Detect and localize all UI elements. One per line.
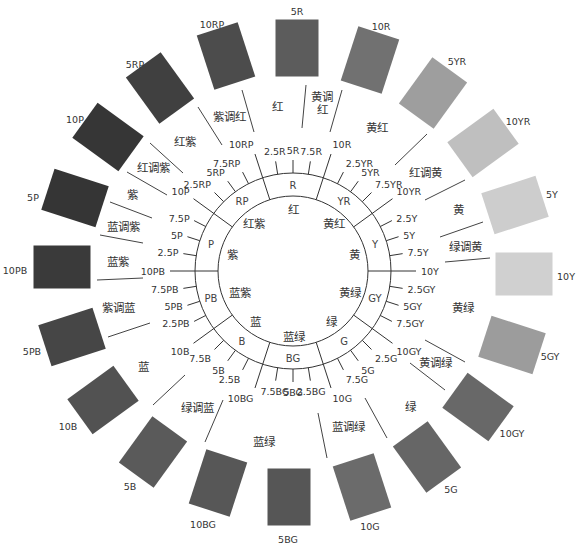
hue-tick-label: 7.5Y xyxy=(408,247,429,258)
region-label: 紫调红 xyxy=(213,110,246,124)
hue-tick-label: 5GY xyxy=(403,301,422,312)
swatch-label: 5R xyxy=(291,6,304,17)
hue-tick xyxy=(215,193,224,202)
hue-tick xyxy=(380,315,392,321)
hue-tick-label: 5YR xyxy=(361,167,380,178)
color-swatch-5gy xyxy=(478,316,545,375)
swatch-label: 10PB xyxy=(3,265,27,276)
hue-tick-label: 7.5YR xyxy=(375,179,403,190)
hue-tick xyxy=(351,181,359,192)
color-swatch-5p xyxy=(41,169,108,228)
hue-tick-label: 2.5G xyxy=(375,353,397,364)
swatch-label: 10B xyxy=(59,421,78,432)
ring-label-bg: BG xyxy=(286,353,300,364)
region-label: 黄红 xyxy=(366,121,388,135)
ring-label-yr: YR xyxy=(336,196,350,207)
swatch-label: 5G xyxy=(444,484,457,495)
color-swatch-5y xyxy=(481,176,548,235)
hue-tick xyxy=(362,340,371,349)
swatch-label: 10R xyxy=(372,21,391,32)
hue-tick xyxy=(354,199,393,227)
hue-tick-label: 5P xyxy=(171,230,183,241)
hue-tick xyxy=(386,237,398,241)
divider xyxy=(445,258,490,262)
region-label: 蓝 xyxy=(138,360,149,374)
region-label: 红 xyxy=(272,100,283,114)
hue-tick xyxy=(380,221,392,227)
swatch-label: 10YR xyxy=(506,116,531,127)
hue-tick xyxy=(183,286,196,288)
color-swatch-10y xyxy=(496,253,553,296)
ring-label-rp: RP xyxy=(236,196,249,207)
hue-tick-label: 10PB xyxy=(141,266,165,277)
color-swatch-10r xyxy=(341,26,400,93)
color-swatch-5r xyxy=(276,20,319,77)
region-label: 蓝调绿 xyxy=(332,420,366,434)
hue-tick xyxy=(243,172,249,184)
swatch-label: 5GY xyxy=(541,351,560,362)
hue-tick-label: 2.5Y xyxy=(396,213,417,224)
inner-labels: 红 黄红 黄 黄绿 绿 蓝绿 蓝 蓝紫 紫 红紫 xyxy=(227,203,363,344)
swatch-label: 5PB xyxy=(23,346,41,357)
color-swatch-10b xyxy=(67,366,138,434)
hue-tick xyxy=(276,368,278,381)
region-label: 红调黄 xyxy=(409,166,442,180)
region-label: 红调紫 xyxy=(137,161,170,175)
color-swatch-10rp xyxy=(197,22,256,89)
hue-tick-label: 2.5R xyxy=(264,146,286,157)
divider xyxy=(425,180,465,200)
hue-tick xyxy=(337,358,343,370)
swatch-label: 10BG xyxy=(190,519,216,530)
inner-label-pb: 蓝紫 xyxy=(229,286,251,300)
swatch-label: 5P xyxy=(27,192,39,203)
hue-tick-label: 7.5G xyxy=(346,374,368,385)
hue-tick xyxy=(386,301,398,305)
region-label: 绿调黄 xyxy=(449,240,482,254)
divider xyxy=(110,202,152,218)
hue-tick xyxy=(308,368,310,381)
hue-tick xyxy=(390,254,403,256)
inner-label-gy: 黄绿 xyxy=(339,286,362,300)
hue-tick xyxy=(193,199,232,227)
hue-tick-label: 7.5P xyxy=(169,213,190,224)
ring-label-b: B xyxy=(239,336,246,347)
color-swatch-5yr xyxy=(399,57,467,128)
hue-tick-label: 10R xyxy=(333,139,352,150)
inner-label-g: 绿 xyxy=(326,315,338,329)
munsell-hue-circle: 紫调红 红 黄调 红 黄红 红调黄 黄 绿调黄 黄绿 黄调绿 绿 蓝调绿 蓝绿 … xyxy=(0,0,579,544)
hue-tick-label: 2.5PB xyxy=(162,318,189,329)
hue-tick-label: 2.5GY xyxy=(408,284,436,295)
divider xyxy=(108,323,150,337)
inner-ring-circle xyxy=(218,196,368,346)
inner-label-rp: 红紫 xyxy=(243,217,265,231)
color-swatch-10bg xyxy=(189,449,248,516)
divider xyxy=(395,134,427,165)
hue-tick-label: 7.5GY xyxy=(396,318,424,329)
region-label: 红 xyxy=(317,103,328,117)
hue-tick-label: 5RP xyxy=(206,167,225,178)
swatch-label: 5YR xyxy=(448,56,467,67)
region-label: 黄绿 xyxy=(452,301,475,315)
hue-tick xyxy=(215,340,224,349)
hue-tick-label: 7.5R xyxy=(300,146,322,157)
divider xyxy=(440,222,483,237)
ring-label-p: P xyxy=(208,239,214,250)
inner-label-b: 蓝 xyxy=(250,315,261,329)
hue-tick xyxy=(351,350,359,361)
hue-tick-label: 5PB xyxy=(164,301,182,312)
color-swatch-5pb xyxy=(38,308,105,367)
hue-tick-label: 2.5BG xyxy=(297,386,326,397)
region-label: 黄 xyxy=(453,203,464,217)
region-label: 黄调 xyxy=(311,90,333,104)
region-label: 绿 xyxy=(405,400,417,414)
hue-tick xyxy=(187,237,199,241)
region-label: 红紫 xyxy=(174,135,196,149)
region-label: 蓝紫 xyxy=(107,255,129,269)
inner-label-p: 紫 xyxy=(227,248,238,262)
ring-label-y: Y xyxy=(371,239,379,250)
hue-tick-label: 5Y xyxy=(403,230,415,241)
region-label: 蓝绿 xyxy=(253,435,276,449)
hue-tick xyxy=(276,161,278,174)
ring-label-g: G xyxy=(340,336,348,347)
divider xyxy=(100,235,143,243)
